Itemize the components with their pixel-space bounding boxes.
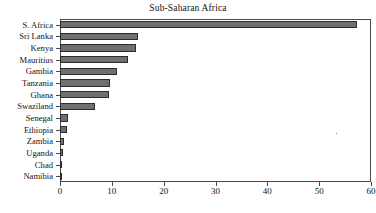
- chart-title: Sub-Saharan Africa: [0, 3, 376, 13]
- y-axis-label: Chad: [35, 160, 53, 169]
- bar[interactable]: [60, 56, 128, 63]
- y-axis-label-row: Mauritius: [0, 54, 57, 66]
- y-axis-label-row: Uganda: [0, 147, 57, 159]
- bar-row: [60, 77, 371, 89]
- y-axis-label-row: Chad: [0, 159, 57, 171]
- x-axis-labels: 0102030405060: [0, 186, 376, 202]
- bar-chart: Sub-Saharan Africa S. AfricaSri LankaKen…: [0, 0, 376, 213]
- bar[interactable]: [60, 126, 67, 133]
- bar[interactable]: [60, 138, 64, 145]
- y-axis-label: Kenya: [31, 44, 53, 53]
- bar-row: [60, 42, 371, 54]
- bars-container: [60, 19, 371, 182]
- bar-row: [60, 19, 371, 31]
- bar[interactable]: [60, 173, 62, 180]
- bar[interactable]: [60, 79, 110, 86]
- x-axis-tick-label: 40: [263, 186, 272, 196]
- y-axis-label: Namibia: [23, 172, 53, 181]
- y-axis-label: Ghana: [31, 90, 53, 99]
- bar[interactable]: [60, 68, 117, 75]
- y-axis-label: Ethiopia: [24, 125, 53, 134]
- y-axis-label-row: Kenya: [0, 42, 57, 54]
- y-axis-label: Uganda: [26, 148, 53, 157]
- bar-row: [60, 159, 371, 171]
- y-axis-label-row: Ethiopia: [0, 124, 57, 136]
- bar-row: [60, 124, 371, 136]
- bar-row: [60, 112, 371, 124]
- bar[interactable]: [60, 21, 357, 28]
- bar-row: [60, 89, 371, 101]
- bar-row: [60, 31, 371, 43]
- x-axis-tick-label: 60: [367, 186, 376, 196]
- bar-row: [60, 170, 371, 182]
- y-axis-label-row: S. Africa: [0, 19, 57, 31]
- x-axis-tick-label: 20: [159, 186, 168, 196]
- bar[interactable]: [60, 103, 95, 110]
- y-axis-label: Zambia: [27, 137, 53, 146]
- y-axis-label: S. Africa: [22, 20, 53, 29]
- bar-row: [60, 147, 371, 159]
- y-axis-label: Sri Lanka: [19, 32, 53, 41]
- y-axis-label-row: Senegal: [0, 112, 57, 124]
- bar-row: [60, 135, 371, 147]
- bar[interactable]: [60, 161, 62, 168]
- y-axis-label-row: Swaziland: [0, 100, 57, 112]
- y-axis-label-row: Zambia: [0, 135, 57, 147]
- y-axis-label: Tanzania: [22, 79, 53, 88]
- y-axis-label: Swaziland: [17, 102, 53, 111]
- x-axis-tick-label: 10: [107, 186, 116, 196]
- bar-row: [60, 66, 371, 78]
- x-axis-tick-label: 0: [58, 186, 63, 196]
- y-axis-labels: S. AfricaSri LankaKenyaMauritiusGambiaTa…: [0, 19, 57, 182]
- y-axis-label-row: Tanzania: [0, 77, 57, 89]
- bar[interactable]: [60, 91, 109, 98]
- y-axis-label: Senegal: [26, 113, 53, 122]
- y-axis-label: Gambia: [26, 67, 53, 76]
- y-axis-label-row: Gambia: [0, 66, 57, 78]
- y-axis-label: Mauritius: [20, 55, 53, 64]
- bar[interactable]: [60, 149, 63, 156]
- y-axis-label-row: Sri Lanka: [0, 31, 57, 43]
- y-axis-label-row: Ghana: [0, 89, 57, 101]
- bar-row: [60, 54, 371, 66]
- y-axis-label-row: Namibia: [0, 170, 57, 182]
- bar[interactable]: [60, 33, 138, 40]
- bar[interactable]: [60, 44, 136, 51]
- bar[interactable]: [60, 114, 68, 121]
- x-axis-tick-label: 50: [315, 186, 324, 196]
- x-axis-tick-label: 30: [211, 186, 220, 196]
- bar-row: [60, 100, 371, 112]
- stray-speck: [336, 133, 337, 134]
